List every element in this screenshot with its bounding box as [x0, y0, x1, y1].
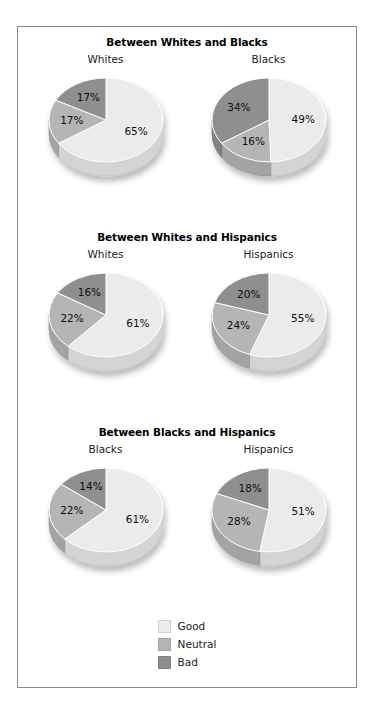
pie-group-label: Blacks — [89, 441, 123, 457]
pie-group-label: Blacks — [252, 51, 286, 67]
panel-whites-hispanics: Between Whites and Hispanics Whites 61%2… — [18, 230, 356, 383]
pie-group-label: Hispanics — [243, 441, 293, 457]
pie-cell: Blacks 49%16%34% — [190, 51, 348, 188]
panel-blacks-hispanics: Between Blacks and Hispanics Blacks 61%2… — [18, 425, 356, 578]
legend-label: Good — [178, 620, 206, 633]
pie-row: Whites 61%22%16% Hispanics 55%24%20% — [18, 246, 356, 383]
svg-text:17%: 17% — [60, 114, 83, 126]
svg-text:24%: 24% — [226, 319, 249, 331]
svg-text:18%: 18% — [238, 482, 261, 494]
pie-cell: Whites 61%22%16% — [27, 246, 185, 383]
pie-row: Whites 65%17%17% Blacks 49%16%34% — [18, 51, 356, 188]
panel-title: Between Whites and Hispanics — [18, 230, 356, 244]
svg-text:51%: 51% — [291, 505, 314, 517]
svg-text:14%: 14% — [79, 480, 102, 492]
svg-text:16%: 16% — [241, 135, 264, 147]
svg-text:28%: 28% — [227, 515, 250, 527]
svg-text:55%: 55% — [291, 312, 314, 324]
svg-text:22%: 22% — [60, 312, 83, 324]
pie-group-label: Whites — [87, 246, 123, 262]
pie-row: Blacks 61%22%14% Hispanics 51%28%18% — [18, 441, 356, 578]
pie-chart[interactable]: 65%17%17% — [31, 68, 181, 188]
pie-cell: Hispanics 55%24%20% — [190, 246, 348, 383]
pie-chart[interactable]: 49%16%34% — [194, 68, 344, 188]
panel-title: Between Whites and Blacks — [18, 35, 356, 49]
legend-label: Bad — [178, 656, 198, 669]
pie-chart[interactable]: 61%22%14% — [31, 458, 181, 578]
pie-cell: Hispanics 51%28%18% — [190, 441, 348, 578]
svg-text:16%: 16% — [77, 286, 100, 298]
svg-text:61%: 61% — [125, 513, 148, 525]
panel-whites-blacks: Between Whites and Blacks Whites 65%17%1… — [18, 35, 356, 188]
legend-swatch-neutral — [158, 638, 171, 651]
legend-item-good[interactable]: Good — [158, 619, 217, 634]
pie-cell: Blacks 61%22%14% — [27, 441, 185, 578]
svg-text:34%: 34% — [227, 101, 250, 113]
svg-text:61%: 61% — [126, 317, 149, 329]
svg-text:17%: 17% — [76, 91, 99, 103]
legend-item-bad[interactable]: Bad — [158, 655, 217, 670]
pie-chart[interactable]: 55%24%20% — [194, 263, 344, 383]
legend-swatch-good — [158, 620, 171, 633]
legend: Good Neutral Bad — [18, 619, 356, 670]
pie-group-label: Hispanics — [243, 246, 293, 262]
legend-swatch-bad — [158, 656, 171, 669]
figure-frame: Between Whites and Blacks Whites 65%17%1… — [17, 26, 357, 688]
pie-chart[interactable]: 61%22%16% — [31, 263, 181, 383]
svg-text:65%: 65% — [124, 125, 147, 137]
panel-title: Between Blacks and Hispanics — [18, 425, 356, 439]
svg-text:20%: 20% — [237, 288, 260, 300]
pie-chart[interactable]: 51%28%18% — [194, 458, 344, 578]
legend-item-neutral[interactable]: Neutral — [158, 637, 217, 652]
svg-text:49%: 49% — [291, 113, 314, 125]
pie-cell: Whites 65%17%17% — [27, 51, 185, 188]
legend-label: Neutral — [178, 638, 217, 651]
svg-text:22%: 22% — [60, 504, 83, 516]
pie-group-label: Whites — [87, 51, 123, 67]
